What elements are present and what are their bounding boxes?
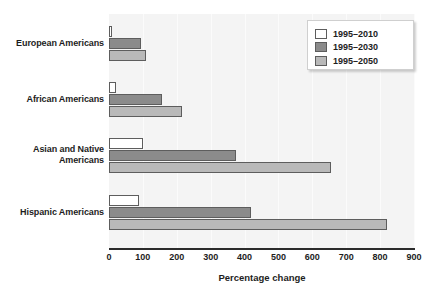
category-label: Asian and NativeAmericans <box>0 144 104 166</box>
x-tick-label: 900 <box>394 252 434 262</box>
category-label-line: Asian and Native <box>0 144 104 155</box>
bar <box>109 207 251 218</box>
bar <box>109 150 236 161</box>
legend-item[interactable]: 1995–2050 <box>315 54 378 67</box>
x-axis-line <box>109 248 415 250</box>
bar-group <box>109 195 414 231</box>
bar <box>109 138 143 149</box>
bar <box>109 82 116 93</box>
legend-label: 1995–2050 <box>333 56 378 66</box>
category-label: Hispanic Americans <box>0 207 104 218</box>
bar-chart: European AmericansAfrican AmericansAsian… <box>0 0 436 303</box>
category-label-line: Americans <box>0 155 104 166</box>
bar <box>109 94 162 105</box>
bar-group <box>109 82 414 118</box>
bar <box>109 106 182 117</box>
gridline <box>414 14 415 249</box>
bar <box>109 195 139 206</box>
bar <box>109 26 112 37</box>
legend-swatch <box>315 29 327 39</box>
category-label: African Americans <box>0 94 104 105</box>
legend-item[interactable]: 1995–2010 <box>315 27 378 40</box>
category-label: European Americans <box>0 38 104 49</box>
category-label-line: African Americans <box>0 94 104 105</box>
category-label-line: European Americans <box>0 38 104 49</box>
bar-group <box>109 138 414 174</box>
legend-swatch <box>315 42 327 52</box>
bar <box>109 38 141 49</box>
bar <box>109 162 331 173</box>
legend-item[interactable]: 1995–2030 <box>315 41 378 54</box>
legend-swatch <box>315 56 327 66</box>
legend: 1995–20101995–20301995–2050 <box>307 20 414 70</box>
x-tick-labels: 0100200300400500600700800900 <box>0 252 436 266</box>
category-label-line: Hispanic Americans <box>0 207 104 218</box>
legend-label: 1995–2030 <box>333 42 378 52</box>
legend-label: 1995–2010 <box>333 29 378 39</box>
bar <box>109 50 146 61</box>
bar <box>109 219 387 230</box>
x-axis-title: Percentage change <box>109 272 415 283</box>
